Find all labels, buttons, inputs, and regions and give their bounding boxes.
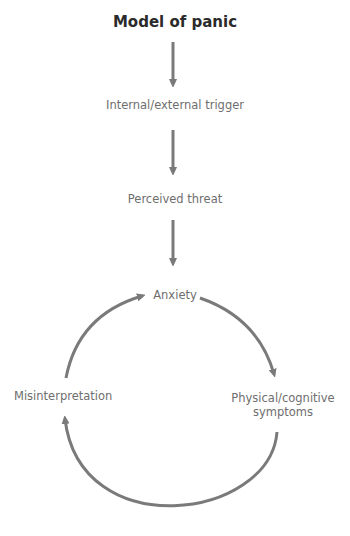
node-trigger: Internal/external trigger xyxy=(0,98,350,112)
flow-arrows xyxy=(0,0,350,536)
node-symptoms: Physical/cognitive symptoms xyxy=(228,391,338,419)
node-misinterpretation: Misinterpretation xyxy=(14,389,118,403)
arrow-symptoms-to-misinterpretation xyxy=(65,419,277,506)
node-anxiety: Anxiety xyxy=(0,288,350,302)
node-symptoms-line1: Physical/cognitive xyxy=(228,391,338,405)
arrow-anxiety-to-symptoms xyxy=(200,298,274,374)
arrow-misinterpretation-to-anxiety xyxy=(66,296,142,378)
node-perceived-threat: Perceived threat xyxy=(0,192,350,206)
node-symptoms-line2: symptoms xyxy=(228,405,338,419)
